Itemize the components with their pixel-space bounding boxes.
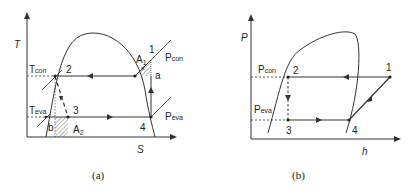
p-axis-arrow-icon bbox=[248, 14, 254, 21]
arrow-2-3-ph-icon bbox=[285, 95, 291, 101]
s-axis-label: S bbox=[137, 144, 144, 155]
arrow-4-1-icon bbox=[148, 87, 154, 93]
point-4-label: 4 bbox=[140, 122, 146, 133]
point-4-ph-dot bbox=[347, 118, 350, 121]
point-4-ph-label: 4 bbox=[352, 125, 358, 136]
point-a-dot bbox=[133, 74, 136, 77]
arrow-3-4-icon bbox=[107, 114, 113, 120]
p-axis-label: P bbox=[241, 32, 248, 43]
panel-a-ts-diagram: T S Tcon Teva Pcon Peva A1 A2 1 2 3 4 a … bbox=[14, 12, 183, 182]
pcon-ph-label: Pcon bbox=[258, 64, 276, 75]
h-axis-arrow-icon bbox=[394, 136, 401, 142]
panel-b-ph-diagram: P h Pcon Peva 1 2 3 4 (b) bbox=[241, 14, 401, 182]
arrow-1-2-icon bbox=[87, 73, 93, 79]
point-2-ph-dot bbox=[286, 75, 289, 78]
refrigeration-cycle-diagrams: T S Tcon Teva Pcon Peva A1 A2 1 2 3 4 a … bbox=[0, 0, 414, 191]
pcon-label: Pcon bbox=[165, 52, 183, 63]
a2-label: A2 bbox=[73, 124, 84, 136]
saturation-dome-ph bbox=[268, 32, 359, 133]
h-axis-label: h bbox=[362, 146, 368, 157]
panel-b-caption: (b) bbox=[292, 169, 305, 182]
area-a2-hatch bbox=[55, 117, 68, 137]
a1-label: A1 bbox=[136, 54, 147, 66]
s-axis-arrow-icon bbox=[170, 134, 177, 140]
point-2-label: 2 bbox=[66, 64, 72, 75]
point-3-label: 3 bbox=[73, 105, 79, 116]
point-1-ph-dot bbox=[388, 75, 391, 78]
point-3-ph-label: 3 bbox=[286, 125, 292, 136]
peva-label: Peva bbox=[165, 111, 183, 122]
teva-label: Teva bbox=[29, 105, 47, 116]
panel-a-caption: (a) bbox=[92, 169, 105, 182]
point-3-dot bbox=[66, 115, 69, 118]
point-2-dot bbox=[53, 74, 56, 77]
point-3-ph-dot bbox=[286, 118, 289, 121]
point-1-ph-label: 1 bbox=[386, 62, 392, 73]
arrow-1-2-ph-icon bbox=[343, 74, 349, 80]
point-b-label: b bbox=[48, 122, 54, 133]
t-axis-label: T bbox=[14, 39, 21, 50]
point-b-dot bbox=[45, 116, 48, 119]
arrow-3-4-ph-icon bbox=[316, 117, 322, 123]
tcon-label: Tcon bbox=[29, 64, 47, 75]
point-1-label: 1 bbox=[149, 44, 155, 55]
point-a-label: a bbox=[155, 70, 161, 81]
point-2-ph-label: 2 bbox=[293, 65, 299, 76]
point-4-dot bbox=[149, 115, 152, 118]
peva-ph-label: Peva bbox=[254, 104, 272, 115]
t-axis-arrow-icon bbox=[24, 12, 30, 19]
